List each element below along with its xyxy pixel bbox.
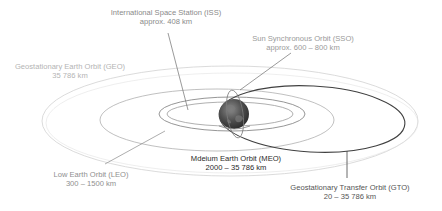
gto-name: Geostationary Transfer Orbit (GTO) [285,183,415,192]
meo-label: Mdeium Earth Orbit (MEO) 2000 – 35 786 k… [180,154,292,173]
meo-orbit [100,89,334,151]
sso-name: Sun Synchronous Orbit (SSO) [247,34,359,43]
sso-leader-line [240,53,291,90]
geo-name: Geostationary Earth Orbit (GEO) [10,62,130,71]
meo-altitude: 2000 – 35 786 km [180,163,292,172]
geo-label: Geostationary Earth Orbit (GEO) 35 786 k… [10,62,130,81]
meo-name: Mdeium Earth Orbit (MEO) [180,154,292,163]
leo-name: Low Earth Orbit (LEO) [50,170,132,179]
earth [219,99,249,129]
leo-label: Low Earth Orbit (LEO) 300 – 1500 km [50,170,132,189]
iss-label: International Space Station (ISS) approx… [108,8,224,27]
leo-altitude: 300 – 1500 km [50,179,132,188]
iss-name: International Space Station (ISS) [108,8,224,17]
gto-label: Geostationary Transfer Orbit (GTO) 20 – … [285,183,415,202]
sso-label: Sun Synchronous Orbit (SSO) approx. 600 … [247,34,359,53]
iss-altitude: approx. 408 km [108,17,224,26]
leo-leader-line [105,131,165,164]
sso-altitude: approx. 600 – 800 km [247,43,359,52]
iss-leader-line [168,33,188,110]
gto-altitude: 20 – 35 786 km [285,192,415,201]
geo-altitude: 35 786 km [10,71,130,80]
